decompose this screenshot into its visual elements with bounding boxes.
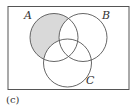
- venn-diagram: [0, 0, 133, 110]
- label-c: C: [86, 74, 94, 87]
- label-a: A: [24, 9, 32, 22]
- caption: (c): [6, 94, 19, 105]
- label-b: B: [102, 9, 110, 22]
